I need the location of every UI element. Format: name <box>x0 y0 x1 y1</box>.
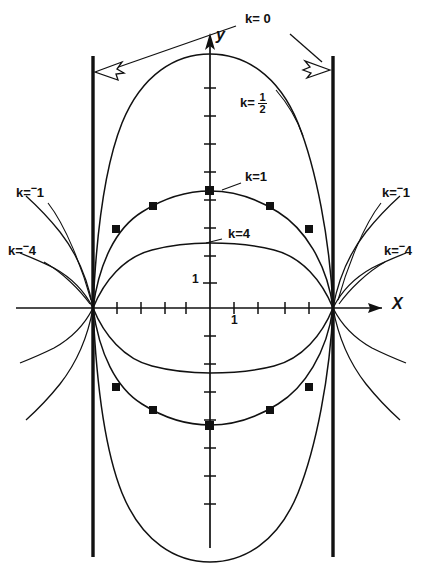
fraction-one-half: 12 <box>258 92 266 115</box>
label-k-neg1-right-prefix: k= <box>382 185 397 200</box>
label-k-neg1-right: k=−1 <box>382 183 410 199</box>
label-k-neg1-right-value: 1 <box>403 185 410 200</box>
label-k-neg4-right-value: 4 <box>405 243 412 258</box>
figure-canvas: k= 0 k= 12 k=1 k=4 k=−1 k=−4 k=−1 k=−4 y… <box>0 0 430 579</box>
y-axis-label-text: y <box>216 26 225 43</box>
x-axis-label: X <box>392 296 403 312</box>
curve-k0-vertical-lines <box>93 56 333 557</box>
x-axis-tick-label-1: 1 <box>231 313 238 327</box>
label-k-4-text: k=4 <box>228 226 250 241</box>
y-axis-tick-label-1: 1 <box>192 272 199 286</box>
label-k-neg1-left: k=−1 <box>16 183 44 199</box>
label-k-neg4-right-prefix: k= <box>384 243 399 258</box>
label-k-neg1-left-value: 1 <box>37 185 44 200</box>
label-k-half-prefix: k= <box>240 95 258 110</box>
k0-arrowhead-right <box>303 61 330 78</box>
x-axis-arrowhead <box>368 303 382 313</box>
label-k-neg4-left: k=−4 <box>8 241 36 257</box>
label-k-0: k= 0 <box>245 12 271 25</box>
axes-group <box>16 33 382 548</box>
label-k-0-text: k= 0 <box>245 11 271 26</box>
label-k-neg4-left-value: 4 <box>29 243 36 258</box>
y-axis-tick-label-1-text: 1 <box>192 272 199 286</box>
plot-svg <box>0 0 430 579</box>
k0-arrowhead-left <box>95 62 124 80</box>
label-k-4: k=4 <box>228 227 250 240</box>
label-k-half: k= 12 <box>240 92 267 115</box>
x-axis-tick-label-1-text: 1 <box>231 313 238 327</box>
label-k-1-text: k=1 <box>245 169 267 184</box>
label-k-neg1-left-prefix: k= <box>16 185 31 200</box>
x-axis-label-text: X <box>392 295 403 312</box>
label-k-neg4-right: k=−4 <box>384 241 412 257</box>
fraction-denominator: 2 <box>258 104 266 115</box>
y-axis-label: y <box>216 27 225 43</box>
label-k-neg4-left-prefix: k= <box>8 243 23 258</box>
label-k-1: k=1 <box>245 170 267 183</box>
